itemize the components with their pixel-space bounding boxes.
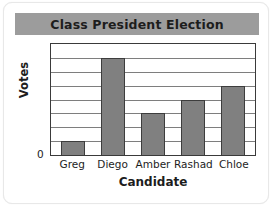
- page-title: Class President Election: [50, 17, 223, 32]
- y-axis-tick-zero: 0: [37, 148, 44, 160]
- y-axis-title: Votes: [17, 52, 31, 108]
- bar-slot: [53, 44, 93, 155]
- x-tick-label-rashad: Rashad: [173, 158, 213, 170]
- plot-area: [50, 43, 256, 156]
- x-axis-tick-labels: GregDiegoAmberRashadChloe: [50, 158, 256, 170]
- x-tick-label-greg: Greg: [52, 158, 92, 170]
- bar-slot: [213, 44, 253, 155]
- x-tick-label-diego: Diego: [92, 158, 132, 170]
- chart-card: Class President Election Votes 0 GregDie…: [3, 2, 269, 204]
- bar-amber: [141, 113, 165, 155]
- bar-diego: [101, 58, 125, 155]
- bar-greg: [61, 141, 85, 155]
- bar-rashad: [181, 100, 205, 156]
- x-axis-title: Candidate: [50, 175, 256, 189]
- chart-title-banner: Class President Election: [15, 13, 259, 35]
- bars-layer: [51, 44, 255, 155]
- bar-chloe: [221, 86, 245, 155]
- bar-slot: [93, 44, 133, 155]
- bar-slot: [173, 44, 213, 155]
- x-tick-label-amber: Amber: [133, 158, 173, 170]
- x-tick-label-chloe: Chloe: [214, 158, 254, 170]
- bar-slot: [133, 44, 173, 155]
